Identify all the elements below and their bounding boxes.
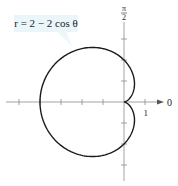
equation-callout: r = 2 − 2 cos θ [14, 15, 78, 46]
callout-pointer [56, 31, 72, 46]
vertical-axis-label-denominator: 2 [122, 13, 126, 22]
arrow-right-icon [157, 100, 164, 105]
equation-label: r = 2 − 2 cos θ [14, 17, 78, 29]
vertical-axis-label-numerator: π [122, 4, 126, 13]
tick-label-one: 1 [144, 108, 149, 118]
polar-plot: r = 2 − 2 cos θ 0 1 π 2 [0, 0, 178, 186]
polar-axis-label: 0 [167, 97, 172, 108]
polar-axis: 0 1 [6, 97, 172, 118]
vertical-axis: π 2 [121, 4, 127, 181]
